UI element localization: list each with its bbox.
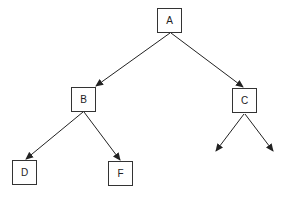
edge-a-c bbox=[171, 33, 243, 87]
node-c: C bbox=[232, 88, 257, 113]
node-b: B bbox=[71, 87, 96, 112]
edge-c-open-left bbox=[216, 114, 244, 151]
edge-b-d bbox=[26, 112, 83, 159]
node-d: D bbox=[12, 160, 37, 185]
node-label: C bbox=[241, 95, 248, 106]
node-a: A bbox=[157, 8, 182, 33]
node-label: B bbox=[80, 94, 87, 105]
edge-a-b bbox=[96, 33, 170, 86]
node-label: A bbox=[166, 15, 173, 26]
edge-b-f bbox=[84, 112, 120, 160]
node-label: D bbox=[21, 167, 28, 178]
edge-c-open-right bbox=[245, 114, 273, 151]
node-f: F bbox=[108, 161, 133, 186]
node-label: F bbox=[117, 168, 123, 179]
